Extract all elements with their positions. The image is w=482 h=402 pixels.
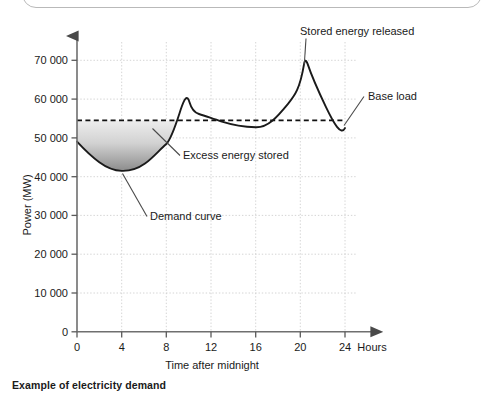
x-tick-label-4: 4 — [119, 341, 125, 353]
excess-energy-shaded-region — [77, 120, 177, 171]
figure-caption: Example of electricity demand — [12, 379, 166, 391]
x-tick-label-20: 20 — [294, 341, 306, 353]
x-tick-label-0: 0 — [74, 341, 80, 353]
annotation-base-load: Base load — [368, 90, 417, 102]
x-tick-label-12: 12 — [205, 341, 217, 353]
y-tick-label-50000: 50 000 — [34, 132, 68, 144]
x-axis-tick-labels: 0 4 8 12 16 20 24 — [74, 341, 351, 353]
y-axis-ticks — [72, 60, 78, 332]
horizontal-gridlines — [77, 60, 356, 293]
y-axis-tick-labels: 0 10 000 20 000 30 000 40 000 50 000 60 … — [34, 54, 68, 338]
y-tick-label-0: 0 — [62, 326, 68, 338]
y-tick-label-70000: 70 000 — [34, 54, 68, 66]
y-tick-label-20000: 20 000 — [34, 248, 68, 260]
leader-line-demand-curve — [123, 174, 148, 217]
annotation-excess-energy-stored: Excess energy stored — [183, 149, 289, 161]
x-axis-ticks — [77, 332, 345, 338]
y-tick-label-10000: 10 000 — [34, 287, 68, 299]
annotation-demand-curve: Demand curve — [150, 210, 222, 222]
y-axis-title: Power (MW) — [21, 174, 33, 235]
vertical-gridlines — [122, 42, 345, 332]
x-tick-label-24: 24 — [339, 341, 351, 353]
x-tick-label-16: 16 — [250, 341, 262, 353]
x-axis-title: Time after midnight — [165, 359, 259, 371]
y-tick-label-40000: 40 000 — [34, 171, 68, 183]
y-tick-label-60000: 60 000 — [34, 93, 68, 105]
annotation-stored-energy-released: Stored energy released — [300, 25, 414, 37]
x-tick-label-8: 8 — [163, 341, 169, 353]
y-tick-label-30000: 30 000 — [34, 209, 68, 221]
x-axis-unit-label: Hours — [357, 341, 387, 353]
leader-line-base-load — [344, 97, 364, 126]
